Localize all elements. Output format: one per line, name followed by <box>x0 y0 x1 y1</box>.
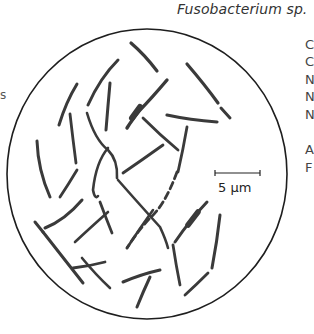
scale-bar <box>215 170 260 176</box>
field-of-view-circle <box>7 29 287 319</box>
bacteria-rods <box>35 43 230 307</box>
microscope-field-diagram <box>0 0 314 334</box>
scale-bar-label: 5 µm <box>218 180 251 195</box>
